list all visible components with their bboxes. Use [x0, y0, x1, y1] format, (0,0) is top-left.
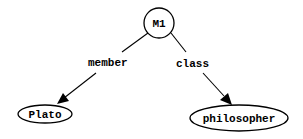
edge-member-line-upper [122, 33, 148, 52]
arrowhead-class [220, 93, 232, 105]
node-plato: Plato [18, 105, 72, 123]
edge-class: class [171, 33, 232, 105]
node-m1-label: M1 [152, 18, 166, 30]
node-plato-label: Plato [28, 109, 61, 121]
edge-class-line-lower [203, 73, 224, 96]
node-philosopher: philosopher [190, 105, 288, 131]
edge-member-line-lower [64, 73, 96, 98]
node-philosopher-label: philosopher [203, 113, 276, 125]
node-m1: M1 [144, 8, 174, 38]
edge-class-line-upper [171, 33, 186, 52]
semantic-network-diagram: member class M1 Plato philosopher [0, 0, 303, 139]
edge-label-member: member [88, 57, 128, 69]
arrowhead-member [57, 93, 69, 104]
edge-member: member [57, 33, 148, 104]
edge-label-class: class [176, 58, 209, 70]
